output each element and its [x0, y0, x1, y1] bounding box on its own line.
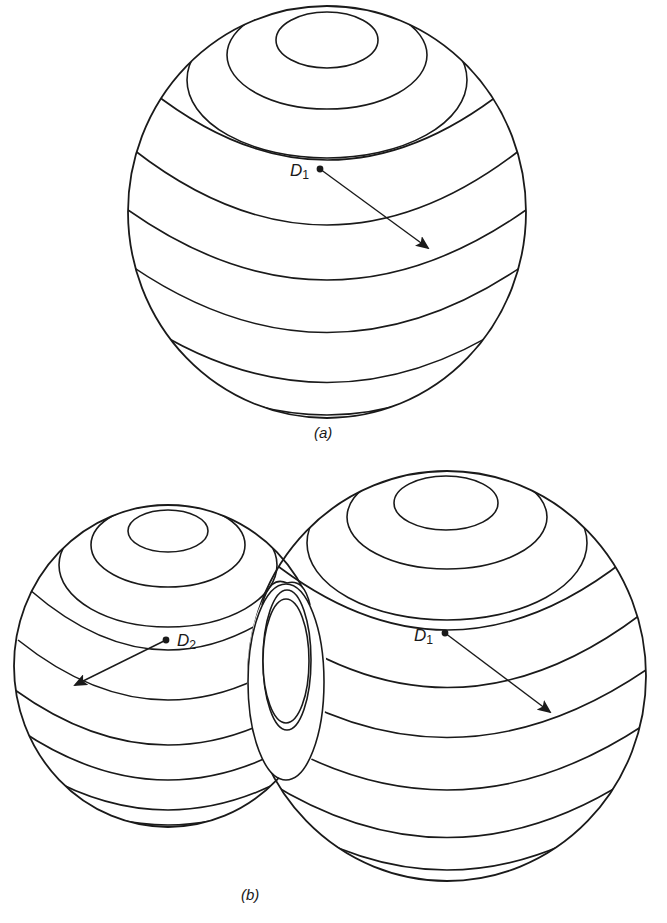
intersection-disk [263, 599, 309, 723]
radius-arrow-d1 [320, 169, 428, 248]
caption-panel-a: (a) [314, 425, 332, 440]
sphere-diagram-canvas [0, 0, 667, 923]
caption-panel-b: (b) [241, 887, 259, 902]
radius-arrow-d2 [75, 640, 166, 685]
sphere-intersection [247, 580, 327, 780]
label-d1-panel-a: D1 [290, 162, 309, 182]
figure-two-spheres: D1 (a) D2 D1 (b) [0, 0, 667, 923]
label-d2-panel-b: D2 [177, 632, 196, 652]
panel-a-sphere-d1 [128, 1, 526, 425]
label-d1-panel-b: D1 [414, 627, 433, 647]
